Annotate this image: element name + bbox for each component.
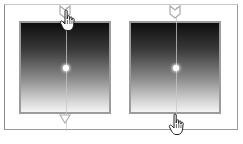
hand-pointer-icon (168, 113, 188, 137)
gradient-center-dot[interactable] (63, 65, 69, 71)
notch-handle-icon[interactable] (169, 5, 181, 19)
triangle-down-handle-icon[interactable] (59, 114, 71, 124)
gradient-panel-left[interactable] (19, 21, 111, 114)
hand-pointer-icon (59, 9, 79, 33)
gradient-center-dot[interactable] (173, 65, 179, 71)
gradient-panel-right[interactable] (129, 21, 221, 114)
